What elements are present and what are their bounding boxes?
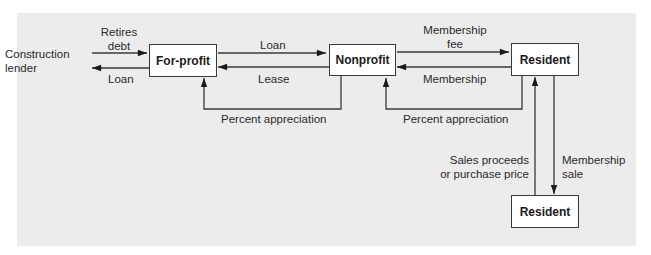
edge-label-membership-sale: Membership sale [562,153,625,181]
edge-label-loan-to-nonprofit: Loan [260,38,286,52]
edge-label-membership: Membership [423,72,486,86]
node-resident-bottom: Resident [511,195,579,228]
edge-label-membership-fee: Membership fee [420,23,490,51]
node-construction-lender: Construction lender [5,47,70,75]
edge-label-percent-appreciation-2: Percent appreciation [403,112,508,126]
node-nonprofit: Nonprofit [329,44,396,76]
edge-label-loan-to-lender: Loan [108,72,134,86]
edge-label-retires-debt: Retires debt [98,25,140,53]
node-for-profit: For-profit [149,44,217,77]
edge-label-lease: Lease [258,72,289,86]
edge-label-percent-appreciation-1: Percent appreciation [221,112,326,126]
edge-label-sales-proceeds: Sales proceeds or purchase price [432,153,529,181]
node-resident-top: Resident [511,43,579,76]
